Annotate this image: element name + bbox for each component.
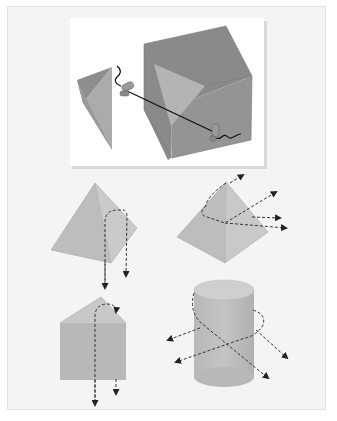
pyramid-diagonal-cut	[177, 175, 286, 263]
cube	[144, 26, 252, 160]
prism-vertical-cut	[60, 297, 126, 405]
cylinder-diagonal-cut	[168, 280, 287, 387]
figure-page	[0, 0, 337, 421]
pyramid-vertical-cut	[51, 183, 137, 288]
diagram-svg	[0, 0, 337, 421]
top-illustration	[70, 18, 267, 169]
